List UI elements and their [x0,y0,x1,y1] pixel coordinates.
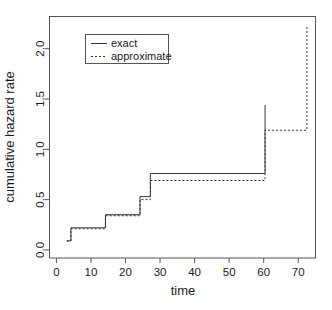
y-tick-label: 1.5 [34,91,46,107]
chart-legend: exact approximate [86,35,172,64]
y-tick-label: 0.0 [34,242,46,258]
x-tick-label: 30 [154,266,167,278]
x-tick-label: 60 [257,266,270,278]
x-tick-label: 20 [119,266,132,278]
series-approximate [67,27,307,241]
y-axis-title: cumulative hazard rate [2,71,17,203]
x-tick-label: 0 [53,266,59,278]
series-exact [67,105,265,241]
legend-label-exact: exact [111,37,137,49]
legend-label-approximate: approximate [111,50,172,62]
y-axis: 0.00.51.01.52.0 [34,41,50,258]
x-tick-label: 50 [223,266,236,278]
cumulative-hazard-chart: 010203040506070 0.00.51.01.52.0 time cum… [0,0,332,310]
plot-frame [50,17,316,259]
y-tick-label: 1.0 [34,141,46,157]
x-axis-title: time [171,283,196,298]
y-tick-label: 0.5 [34,192,46,208]
series-layer [67,27,307,241]
x-axis: 010203040506070 [53,258,304,278]
y-tick-label: 2.0 [34,41,46,57]
plot-svg: 010203040506070 0.00.51.01.52.0 time cum… [0,0,332,310]
x-tick-label: 70 [292,266,305,278]
x-tick-label: 10 [85,266,98,278]
x-tick-label: 40 [188,266,201,278]
